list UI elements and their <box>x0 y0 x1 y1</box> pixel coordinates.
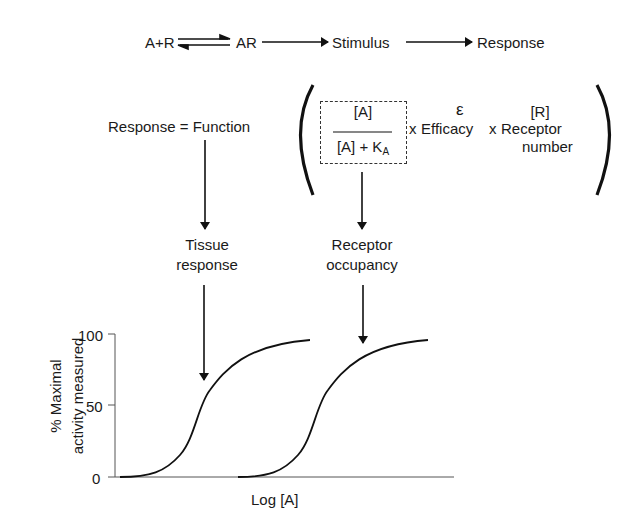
tissue-response-curve <box>120 340 310 477</box>
equilibrium-arrows-icon <box>178 35 230 49</box>
diagram-graphics <box>0 0 641 527</box>
right-paren-icon <box>597 85 610 195</box>
left-paren-icon <box>301 85 314 195</box>
receptor-occupancy-curve <box>238 340 428 477</box>
